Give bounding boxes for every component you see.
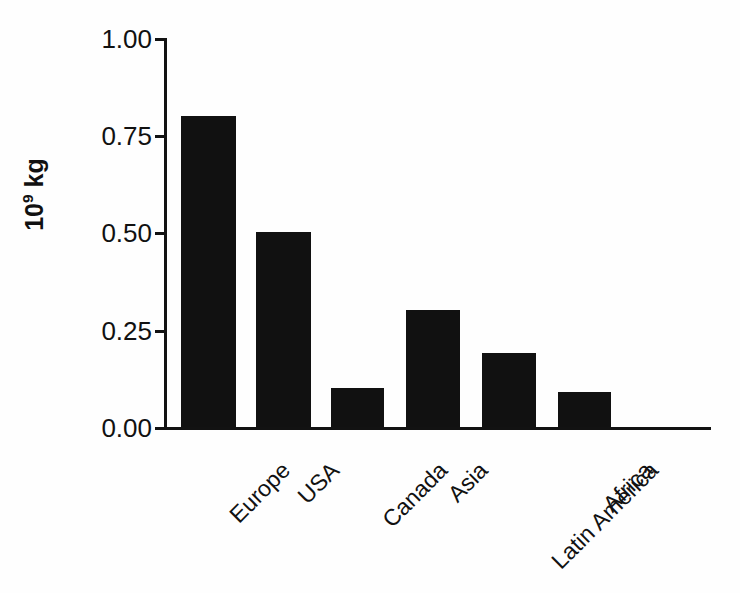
y-tick-mark-2 bbox=[155, 135, 165, 138]
y-axis-title-exponent: 9 bbox=[19, 194, 36, 203]
x-tick-label-canada: Canada bbox=[378, 458, 451, 531]
y-tick-mark-3 bbox=[155, 232, 165, 235]
y-tick-label-5: 0.00 bbox=[60, 415, 152, 441]
bar-chart: 109 kg 1.00 0.75 0.50 0.25 0.00 Europe U… bbox=[0, 0, 740, 593]
y-tick-mark-5 bbox=[155, 427, 165, 430]
bar-usa[interactable] bbox=[256, 232, 311, 427]
x-tick-label-asia: Asia bbox=[444, 458, 492, 506]
y-axis-title-mantissa: 10 bbox=[20, 203, 48, 231]
x-tick-label-europe: Europe bbox=[226, 458, 295, 527]
y-tick-mark-4 bbox=[155, 330, 165, 333]
y-tick-label-4: 0.25 bbox=[60, 318, 152, 344]
y-tick-mark-1 bbox=[155, 38, 165, 41]
bar-latin-america[interactable] bbox=[482, 353, 536, 427]
x-axis-line bbox=[164, 427, 711, 430]
bar-canada[interactable] bbox=[331, 388, 384, 427]
bar-europe[interactable] bbox=[181, 116, 236, 427]
bar-africa[interactable] bbox=[558, 392, 611, 427]
y-axis-title-unit: kg bbox=[20, 158, 48, 194]
y-axis-title: 109 kg bbox=[20, 140, 49, 250]
y-tick-label-2: 0.75 bbox=[60, 123, 152, 149]
y-tick-label-3: 0.50 bbox=[60, 220, 152, 246]
x-tick-label-usa: USA bbox=[294, 458, 344, 508]
bar-asia[interactable] bbox=[406, 310, 460, 427]
y-tick-label-1: 1.00 bbox=[60, 26, 152, 52]
